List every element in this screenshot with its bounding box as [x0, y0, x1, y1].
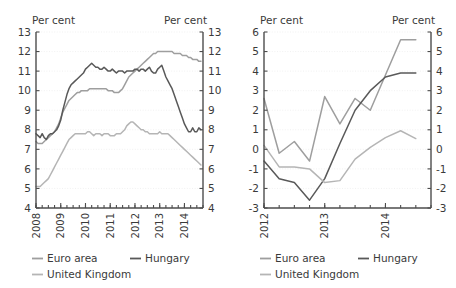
series-line-united-kingdom	[264, 131, 416, 183]
y-tick-label-right: -1	[436, 163, 446, 175]
y-tick-label-left: 2	[252, 104, 259, 116]
x-tick-label: 2012	[259, 213, 270, 238]
series-line-euro-area	[36, 52, 201, 144]
y-tick-label-right: 4	[436, 65, 443, 77]
y-tick-label-right: 4	[208, 202, 215, 214]
y-tick-label-left: 4	[24, 202, 31, 214]
y-tick-label-left: -3	[249, 202, 259, 214]
y-axis-unit-left: Per cent	[260, 14, 303, 26]
y-axis-unit-left: Per cent	[32, 14, 75, 26]
left-chart-panel: Per centPer cent445566778899101011111212…	[0, 0, 228, 288]
y-tick-label-right: 6	[208, 163, 215, 175]
y-tick-label-right: 3	[436, 84, 443, 96]
y-tick-label-right: 0	[436, 143, 443, 155]
x-tick-label: 2008	[31, 213, 42, 238]
y-tick-label-left: -1	[249, 163, 259, 175]
x-tick-label: 2011	[105, 213, 116, 238]
legend-label-euro-area: Euro area	[275, 252, 326, 264]
y-tick-label-right: 9	[208, 104, 215, 116]
figure-container: Per centPer cent445566778899101011111212…	[0, 0, 456, 288]
y-axis-unit-right: Per cent	[392, 14, 435, 26]
y-tick-label-right: 11	[208, 65, 221, 77]
y-tick-label-left: 6	[24, 163, 31, 175]
legend-label-united-kingdom: United Kingdom	[47, 268, 131, 280]
x-tick-label: 2013	[154, 213, 165, 238]
y-tick-label-left: 4	[252, 65, 259, 77]
y-tick-label-left: 12	[18, 45, 31, 57]
legend-label-united-kingdom: United Kingdom	[275, 268, 359, 280]
y-tick-label-right: 12	[208, 45, 221, 57]
right-chart-svg: Per centPer cent-3-3-2-2-1-1001122334455…	[228, 0, 456, 288]
y-tick-label-right: 8	[208, 123, 215, 135]
y-tick-label-left: 5	[252, 45, 259, 57]
y-tick-label-right: 13	[208, 26, 221, 38]
y-axis-unit-right: Per cent	[164, 14, 207, 26]
y-tick-label-right: 5	[436, 45, 443, 57]
series-line-hungary	[36, 63, 201, 139]
y-tick-label-right: 2	[436, 104, 443, 116]
y-tick-label-right: -2	[436, 182, 446, 194]
y-tick-label-left: 9	[24, 104, 31, 116]
y-tick-label-left: 7	[24, 143, 31, 155]
y-tick-label-left: 13	[18, 26, 31, 38]
legend-label-euro-area: Euro area	[47, 252, 98, 264]
x-tick-label: 2014	[179, 213, 190, 238]
y-tick-label-left: 6	[252, 26, 259, 38]
y-tick-label-left: -2	[249, 182, 259, 194]
y-tick-label-right: 5	[208, 182, 215, 194]
x-tick-label: 2013	[319, 213, 330, 238]
y-tick-label-left: 11	[18, 65, 31, 77]
legend-label-hungary: Hungary	[373, 252, 418, 264]
x-tick-label: 2009	[55, 213, 66, 238]
x-tick-label: 2014	[380, 213, 391, 238]
y-tick-label-right: 6	[436, 26, 443, 38]
y-tick-label-right: -3	[436, 202, 446, 214]
y-tick-label-right: 10	[208, 84, 221, 96]
legend-label-hungary: Hungary	[145, 252, 190, 264]
right-chart-panel: Per centPer cent-3-3-2-2-1-1001122334455…	[228, 0, 456, 288]
y-tick-label-left: 10	[18, 84, 31, 96]
y-tick-label-right: 7	[208, 143, 215, 155]
y-tick-label-right: 1	[436, 123, 443, 135]
y-tick-label-left: 0	[252, 143, 259, 155]
x-tick-label: 2010	[80, 213, 91, 238]
y-tick-label-left: 8	[24, 123, 31, 135]
y-tick-label-left: 3	[252, 84, 259, 96]
left-chart-svg: Per centPer cent445566778899101011111212…	[0, 0, 228, 288]
x-tick-label: 2012	[130, 213, 141, 238]
series-line-united-kingdom	[36, 122, 201, 187]
y-tick-label-left: 1	[252, 123, 259, 135]
y-tick-label-left: 5	[24, 182, 31, 194]
